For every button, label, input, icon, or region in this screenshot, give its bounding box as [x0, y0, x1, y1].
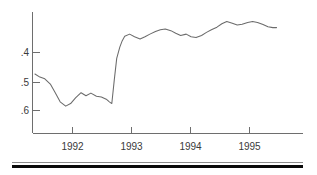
y-axis-tick-labels: .4 .5 .6: [21, 47, 30, 116]
x-tick-label-0: 1992: [61, 141, 84, 152]
y-tick-label-0: .4: [21, 47, 30, 58]
x-tick-label-1: 1993: [120, 141, 143, 152]
x-tick-label-3: 1995: [238, 141, 261, 152]
y-tick-label-2: .6: [21, 105, 30, 116]
line-chart: .4 .5 .6 1992 1993 1994 1995: [0, 0, 317, 175]
y-tick-label-1: .5: [21, 77, 30, 88]
x-tick-label-2: 1994: [179, 141, 202, 152]
chart-background: [0, 0, 317, 175]
